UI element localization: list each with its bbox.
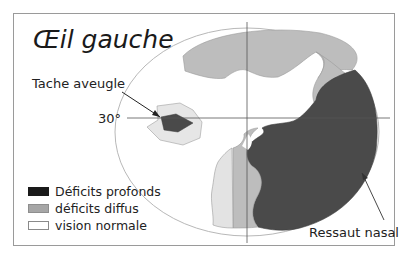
- legend-item-deep: Déficits profonds: [28, 183, 161, 200]
- diagram-title: Œil gauche: [33, 25, 174, 54]
- nasal-step-label: Ressaut nasal: [309, 225, 399, 240]
- blind-spot-label: Tache aveugle: [32, 76, 125, 91]
- legend-item-normal: vision normale: [28, 217, 161, 234]
- legend-swatch-deep: [28, 187, 49, 196]
- nasal-step-arrow: [362, 173, 384, 220]
- legend-swatch-normal: [28, 221, 49, 230]
- legend: Déficits profonds déficits diffus vision…: [28, 183, 161, 234]
- legend-label: vision normale: [55, 218, 147, 233]
- legend-label: déficits diffus: [55, 201, 139, 216]
- degree-30-label: 30°: [98, 111, 121, 126]
- legend-swatch-diffuse: [28, 204, 49, 213]
- legend-label: Déficits profonds: [55, 184, 161, 199]
- legend-item-diffuse: déficits diffus: [28, 200, 161, 217]
